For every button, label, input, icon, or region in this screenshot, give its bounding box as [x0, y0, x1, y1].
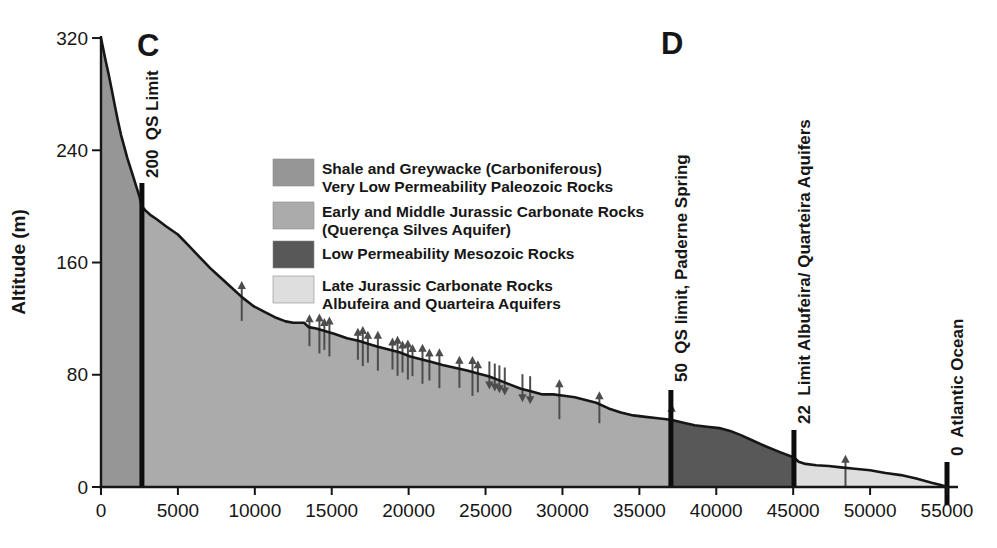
y-tick-label: 160: [56, 252, 88, 273]
y-tick-label: 80: [67, 364, 88, 385]
late-jurassic-swatch: [273, 276, 314, 303]
paderne-spring-marker-bar: [668, 390, 673, 487]
y-tick-label: 320: [56, 28, 88, 49]
geology-regions-layer: [101, 38, 947, 487]
legend-label: (Querença Silves Aquifer): [322, 221, 511, 238]
y-tick-label: 0: [77, 477, 88, 498]
upward-flow-arrowhead: [555, 379, 563, 387]
section-letter-d: D: [661, 26, 683, 61]
upward-flow-arrowhead: [595, 391, 603, 399]
qs-limit-marker-bar: [139, 183, 144, 487]
albufeira-quarteira-limit-marker-label: 22 Limit Albufeira/ Quarteira Aquifers: [795, 119, 814, 424]
upward-flow-arrowhead: [435, 348, 443, 356]
upward-flow-arrowhead: [359, 326, 367, 334]
albufeira-quarteira-limit-marker-bar: [791, 430, 796, 487]
upward-flow-arrowhead: [325, 316, 333, 324]
upward-flow-arrowhead: [455, 356, 463, 364]
hydrogeology-profile-figure: 200 QS Limit50 QS limit, Paderne Spring2…: [0, 0, 997, 548]
x-tick-label: 30000: [536, 500, 589, 521]
legend-label: Very Low Permeability Paleozoic Rocks: [322, 178, 613, 195]
upward-flow-arrowhead: [404, 340, 412, 348]
legend-label: Late Jurassic Carbonate Rocks: [322, 277, 553, 294]
x-tick-label: 15000: [305, 500, 358, 521]
upward-flow-arrowhead: [425, 349, 433, 357]
x-tick-label: 10000: [228, 500, 281, 521]
x-tick-label: 40000: [690, 500, 743, 521]
mesozoic-swatch: [273, 241, 314, 268]
upward-flow-arrowhead: [468, 356, 476, 364]
x-tick-label: 0: [96, 500, 107, 521]
upward-flow-arrowhead: [315, 313, 323, 321]
legend-label: Albufeira and Quarteira Aquifers: [322, 295, 561, 312]
shale-greywacke-region: [101, 38, 142, 487]
upward-flow-arrowhead: [393, 336, 401, 344]
x-tick-label: 55000: [921, 500, 974, 521]
y-tick-label: 240: [56, 140, 88, 161]
mesozoic-region: [671, 420, 794, 487]
x-tick-label: 5000: [157, 500, 199, 521]
y-axis-title: Altitude (m): [8, 209, 29, 315]
x-tick-label: 25000: [459, 500, 512, 521]
upward-flow-arrowhead: [841, 455, 849, 463]
paderne-spring-marker-label: 50 QS limit, Paderne Spring: [672, 154, 691, 382]
section-letter-c: C: [137, 28, 159, 63]
upward-flow-arrowhead: [305, 314, 313, 322]
x-tick-label: 20000: [382, 500, 435, 521]
legend-label: Low Permeability Mesozoic Rocks: [322, 245, 574, 262]
shale-greywacke-swatch: [273, 159, 314, 186]
late-jurassic-region: [794, 458, 947, 488]
upward-flow-arrowhead: [374, 331, 382, 339]
legend-label: Early and Middle Jurassic Carbonate Rock…: [322, 203, 644, 220]
qs-limit-marker-label: 200 QS Limit: [143, 70, 162, 178]
legend-label: Shale and Greywacke (Carboniferous): [322, 160, 602, 177]
atlantic-ocean-marker-bar: [945, 462, 950, 505]
legend: Shale and Greywacke (Carboniferous)Very …: [273, 159, 644, 312]
x-tick-label: 50000: [844, 500, 897, 521]
qs-aquifer-swatch: [273, 202, 314, 229]
scanned-figure-page: 200 QS Limit50 QS limit, Paderne Spring2…: [0, 0, 997, 548]
upward-flow-arrowhead: [238, 281, 246, 289]
upward-flow-arrowhead: [418, 344, 426, 352]
atlantic-ocean-marker-label: 0 Atlantic Ocean: [948, 319, 967, 456]
x-tick-label: 45000: [767, 500, 820, 521]
x-tick-label: 35000: [613, 500, 666, 521]
